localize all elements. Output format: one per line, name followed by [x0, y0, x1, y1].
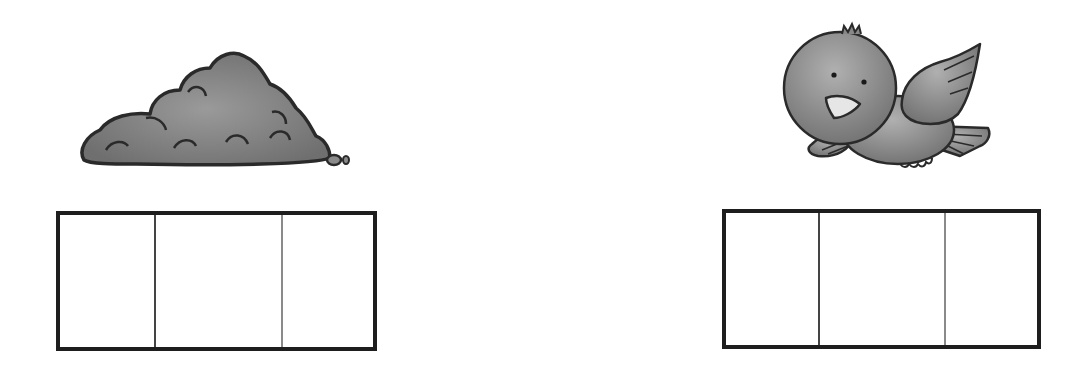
sound-box-1[interactable]: [60, 215, 154, 347]
bird-icon: [770, 18, 1000, 168]
sound-box-row-dirt: [56, 211, 377, 351]
sound-box-row-bird: [722, 209, 1041, 349]
sound-box-2[interactable]: [156, 215, 281, 347]
sound-box-3[interactable]: [946, 213, 1037, 345]
dirt-pile-picture: dirt: [76, 32, 356, 172]
bird-picture: bird: [770, 18, 1000, 168]
sound-box-2[interactable]: [820, 213, 944, 345]
sound-box-1[interactable]: [726, 213, 818, 345]
sound-box-3[interactable]: [283, 215, 373, 347]
dirt-pile-icon: [76, 32, 356, 172]
